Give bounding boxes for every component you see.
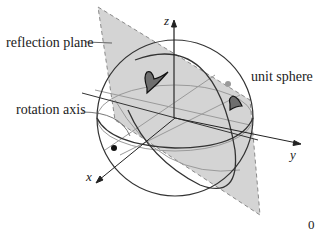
label-unit-sphere: unit sphere: [251, 70, 313, 84]
black-point: [111, 145, 117, 151]
label-axis-y: y: [290, 148, 296, 161]
z-arrow-icon: [172, 20, 177, 27]
label-corner-number: 0: [308, 218, 315, 231]
reflection-plane: [98, 7, 260, 215]
label-reflection-plane: reflection plane: [6, 36, 93, 50]
label-axis-z: z: [164, 14, 169, 27]
gray-point: [225, 81, 231, 87]
label-rotation-axis: rotation axis: [16, 103, 86, 117]
y-arrow-icon: [293, 141, 301, 146]
label-axis-x: x: [86, 170, 92, 183]
